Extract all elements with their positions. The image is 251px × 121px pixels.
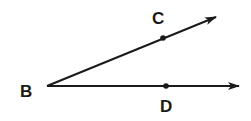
label-c: C [152, 9, 164, 28]
point-d [163, 83, 169, 89]
label-b: B [20, 82, 32, 101]
label-d: D [160, 97, 172, 116]
point-c [160, 35, 166, 41]
ray-bc [47, 17, 216, 86]
angle-diagram: B C D [0, 0, 251, 121]
